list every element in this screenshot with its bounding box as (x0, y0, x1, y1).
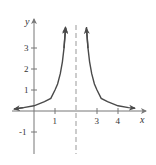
curve-right-arrow-start (86, 28, 88, 48)
x-tick-label-3: 3 (95, 116, 100, 126)
curve-left-arrow (14, 108, 24, 109)
x-tick-label-4: 4 (116, 116, 121, 126)
x-tick-label-1: 1 (53, 116, 58, 126)
y-tick-label-3: 3 (24, 43, 29, 53)
y-axis-label: y (24, 16, 30, 27)
x-axis-label: x (139, 114, 145, 125)
curve-left-arrow-up (64, 28, 66, 48)
chart: 1 3 4 3 2 1 -1 x y (0, 0, 156, 165)
y-tick-label-2: 2 (24, 64, 29, 74)
y-tick-label-neg1: -1 (19, 127, 27, 137)
y-tick-label-1: 1 (24, 85, 29, 95)
curve-right-branch (87, 27, 136, 108)
